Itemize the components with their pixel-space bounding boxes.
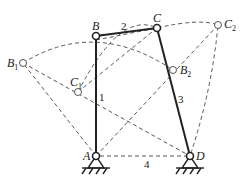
link-label-4: 4 [144,158,150,170]
joint-d [187,153,194,160]
line-a-c2 [96,25,218,156]
label-b2: B2 [180,63,191,79]
label-b: B [92,19,100,33]
joint-c [154,25,161,32]
label-d: D [195,149,205,163]
link-3 [157,28,190,156]
joint-c2 [215,22,222,29]
joint-a [93,153,100,160]
label-c: C [153,11,162,25]
label-c2: C2 [224,17,236,33]
link-label-1: 1 [99,91,105,103]
joint-b1 [20,60,27,67]
line-c1-c [78,28,157,92]
arc-b-path [23,42,173,70]
joint-b [93,33,100,40]
label-a: A [82,149,91,163]
label-c1: C1 [70,75,82,91]
joint-b2 [170,67,177,74]
line-a-b1 [23,63,96,156]
link-label-2: 2 [121,20,127,32]
line-b1-d [23,63,190,156]
four-bar-linkage-diagram: B C A D B1 C1 B2 C2 1 2 3 4 [0,0,245,191]
link-label-3: 3 [178,93,184,105]
label-b1: B1 [7,56,18,72]
